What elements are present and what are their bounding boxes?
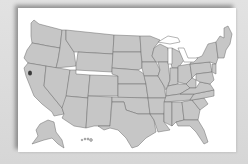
lake-superior [158, 36, 180, 44]
state-new-mexico[interactable] [86, 96, 112, 128]
state-arkansas[interactable] [148, 98, 166, 114]
state-alaska[interactable] [32, 120, 64, 148]
location-marker[interactable] [28, 70, 32, 75]
state-florida[interactable] [176, 120, 208, 144]
state-south-dakota[interactable] [112, 52, 142, 70]
state-utah[interactable] [66, 70, 90, 98]
state-montana[interactable] [66, 30, 114, 54]
state-new-england[interactable] [216, 26, 232, 58]
map-frame [0, 0, 248, 164]
map-card [18, 8, 236, 152]
us-states-map [18, 8, 236, 152]
state-maryland-delaware[interactable] [196, 72, 214, 84]
state-kansas[interactable] [118, 84, 148, 98]
state-colorado[interactable] [88, 75, 118, 96]
state-arizona[interactable] [62, 96, 88, 128]
state-new-jersey[interactable] [212, 64, 216, 74]
state-mississippi[interactable] [164, 102, 172, 126]
state-iowa[interactable] [142, 62, 160, 76]
state-hawaii[interactable] [81, 138, 92, 141]
state-wyoming[interactable] [76, 52, 113, 72]
lake-michigan [168, 48, 172, 64]
state-north-dakota[interactable] [113, 35, 141, 52]
